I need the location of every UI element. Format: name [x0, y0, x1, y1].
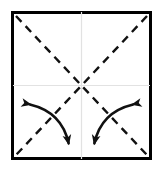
fold-diagram-canvas [0, 0, 163, 171]
origami-fold-diagram [0, 0, 163, 171]
